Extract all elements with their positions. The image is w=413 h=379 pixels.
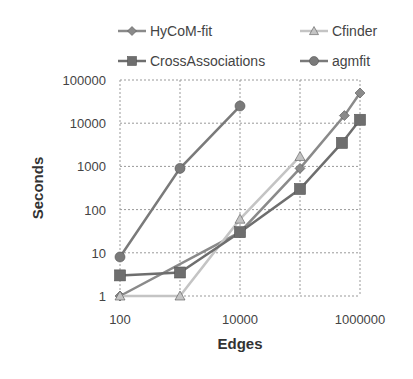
legend-label: CrossAssociations [150, 53, 265, 69]
circle-marker [235, 101, 245, 111]
legend-item: agmfit [300, 53, 370, 69]
circle-marker [175, 163, 185, 173]
square-marker [336, 137, 347, 148]
y-tick-label: 100 [84, 203, 106, 218]
x-tick-label: 10000 [222, 312, 258, 327]
legend-label: HyCoM-fit [150, 23, 212, 39]
square-marker [115, 270, 126, 281]
x-axis-title: Edges [217, 335, 262, 352]
gridlines [120, 80, 360, 296]
square-marker [355, 114, 366, 125]
legend-label: Cfinder [332, 23, 377, 39]
square-marker [235, 227, 246, 238]
runtime-chart: 110100100010000100000 100100001000000 Hy… [0, 0, 413, 379]
diamond-marker [128, 27, 137, 36]
y-tick-label: 1 [99, 289, 106, 304]
legend-item: Cfinder [300, 23, 377, 39]
y-axis-title: Seconds [29, 157, 46, 220]
legend: HyCoM-fitCfinderCrossAssociationsagmfit [118, 23, 377, 69]
series-cfinder [115, 151, 305, 300]
x-tick-label: 1000000 [335, 312, 386, 327]
legend-label: agmfit [332, 53, 370, 69]
square-marker [295, 183, 306, 194]
y-tick-label: 100000 [63, 73, 106, 88]
x-axis-ticks: 100100001000000 [109, 312, 385, 327]
square-marker [128, 57, 137, 66]
circle-marker [115, 252, 125, 262]
y-tick-label: 10 [92, 246, 106, 261]
circle-marker [310, 57, 319, 66]
triangle-marker [295, 151, 305, 160]
legend-item: HyCoM-fit [118, 23, 212, 39]
square-marker [175, 267, 186, 278]
y-axis-ticks: 110100100010000100000 [63, 73, 106, 304]
x-tick-label: 100 [109, 312, 131, 327]
y-tick-label: 1000 [77, 159, 106, 174]
y-tick-label: 10000 [70, 116, 106, 131]
legend-item: CrossAssociations [118, 53, 265, 69]
